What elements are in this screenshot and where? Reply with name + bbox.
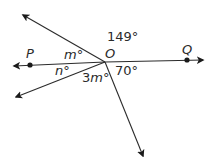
point-p-dot bbox=[27, 62, 32, 67]
point-q-label: Q bbox=[182, 42, 192, 57]
angle-149-label: 149° bbox=[107, 29, 138, 44]
angle-diagram: 149° O Q P m° n° 3m° 70° bbox=[0, 0, 215, 168]
vertex-o-label: O bbox=[105, 46, 115, 61]
point-p-label: P bbox=[26, 46, 34, 61]
angle-70-label: 70° bbox=[115, 63, 138, 78]
angle-3m-label: 3m° bbox=[82, 70, 109, 85]
angle-n-label: n° bbox=[55, 63, 70, 78]
angle-m-label: m° bbox=[64, 47, 83, 62]
point-q-dot bbox=[184, 57, 189, 62]
